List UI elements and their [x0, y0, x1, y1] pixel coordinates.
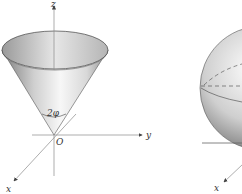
cone-opening [2, 31, 108, 69]
angle-label: 2φ [46, 108, 60, 118]
x-axis [14, 114, 76, 181]
diagram-canvas: 2φ z y x O x [0, 0, 242, 194]
x-axis-label: x [6, 184, 11, 194]
sphere-surface [200, 26, 242, 150]
sphere-x-axis [224, 164, 242, 182]
origin-label: O [56, 137, 64, 147]
cone-figure: 2φ z y x O [2, 0, 152, 194]
sphere-x-axis-label: x [214, 183, 219, 193]
y-axis-label: y [145, 130, 152, 140]
sphere-figure: x [200, 26, 242, 193]
z-axis-label: z [50, 0, 56, 9]
